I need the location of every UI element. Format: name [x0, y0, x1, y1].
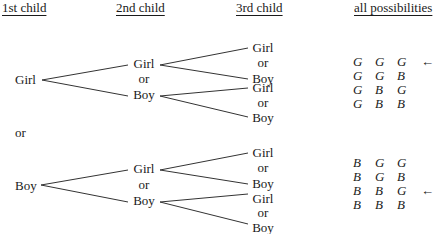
outcome-cell: G [353, 69, 362, 82]
second-child-or: or [139, 72, 150, 85]
arrow-left-icon: ← [421, 55, 434, 68]
outcome-cell: B [353, 156, 361, 169]
outcome-cell: G [397, 55, 406, 68]
second-child-girl: Girl [134, 162, 155, 175]
outcome-cell: G [375, 156, 384, 169]
outcome-cell: B [375, 198, 383, 211]
third-child-or: or [258, 161, 269, 174]
third-child-or: or [258, 96, 269, 109]
third-child-boy: Boy [252, 111, 274, 124]
outcome-cell: G [353, 97, 362, 110]
second-child-or: or [139, 178, 150, 191]
second-child-boy: Boy [133, 88, 155, 101]
outcome-cell: B [397, 97, 405, 110]
outcome-cell: B [375, 83, 383, 96]
second-child-girl: Girl [134, 57, 155, 70]
second-child-boy: Boy [133, 194, 155, 207]
outcome-cell: B [375, 97, 383, 110]
third-child-girl: Girl [253, 41, 274, 54]
header-first-child: 1st child [2, 1, 46, 14]
first-child-boy: Boy [15, 179, 37, 192]
outcome-cell: G [353, 55, 362, 68]
separator-or: or [15, 126, 26, 139]
outcome-cell: G [397, 184, 406, 197]
outcome-cell: G [397, 83, 406, 96]
outcome-cell: G [353, 83, 362, 96]
third-child-girl: Girl [253, 146, 274, 159]
outcome-cell: G [375, 69, 384, 82]
outcome-cell: B [353, 170, 361, 183]
outcome-cell: B [397, 170, 405, 183]
tree-branches [0, 0, 440, 234]
first-child-girl: Girl [15, 73, 36, 86]
outcome-cell: G [375, 170, 384, 183]
outcome-cell: B [397, 69, 405, 82]
third-child-girl: Girl [253, 81, 274, 94]
third-child-girl: Girl [253, 192, 274, 205]
header-all-possibilities: all possibilities [354, 1, 432, 14]
outcome-cell: G [397, 156, 406, 169]
third-child-boy: Boy [252, 221, 274, 234]
header-second-child: 2nd child [116, 1, 165, 14]
third-child-boy: Boy [252, 177, 274, 190]
outcome-cell: B [375, 184, 383, 197]
arrow-left-icon: ← [421, 184, 434, 197]
outcome-cell: G [375, 55, 384, 68]
third-child-or: or [258, 206, 269, 219]
outcome-cell: B [397, 198, 405, 211]
outcome-cell: B [353, 184, 361, 197]
third-child-or: or [258, 56, 269, 69]
header-third-child: 3rd child [236, 1, 283, 14]
outcome-cell: B [353, 198, 361, 211]
